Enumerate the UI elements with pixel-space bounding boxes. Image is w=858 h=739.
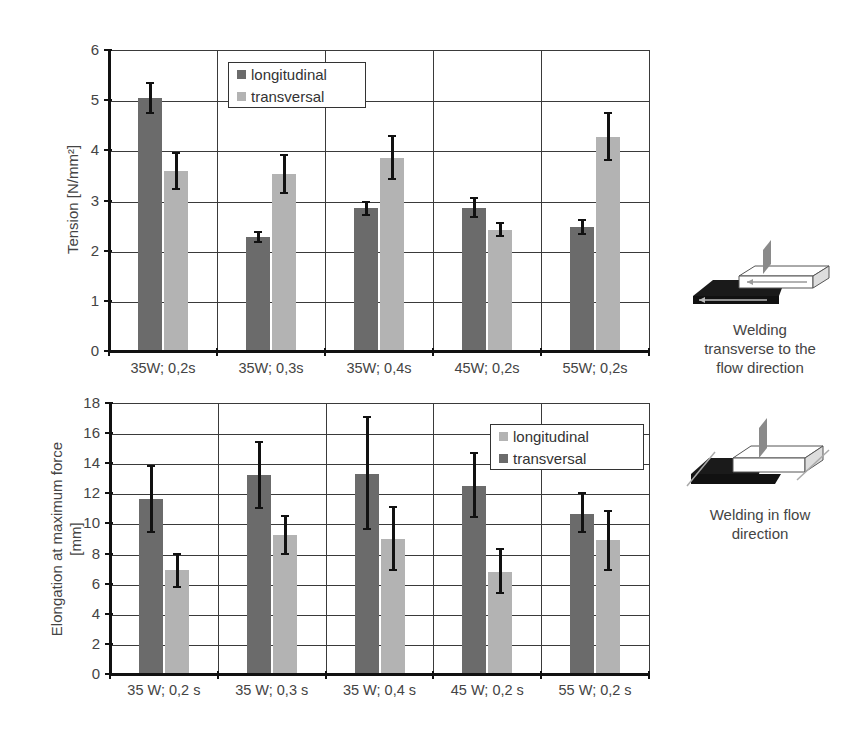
error-cap [389, 569, 397, 571]
x-tick-label: 45 W; 0,2 s [433, 682, 541, 698]
legend-label: longitudinal [513, 428, 589, 445]
y-tick [105, 613, 113, 615]
error-cap [604, 510, 612, 512]
gridline [110, 615, 649, 616]
category-separator [433, 404, 434, 675]
error-cap [470, 452, 478, 454]
y-tick [105, 522, 113, 524]
error-cap [363, 528, 371, 530]
error-bar [499, 549, 502, 593]
welding-transverse-caption: Welding transverse to the flow direction [670, 320, 850, 377]
error-cap [255, 507, 263, 509]
caption-line: Welding [670, 320, 850, 339]
x-tick-label: 35 W; 0,4 s [326, 682, 434, 698]
weld-inflow-icon [685, 412, 845, 492]
x-axis [109, 673, 650, 676]
x-tick [217, 671, 219, 679]
legend-item: longitudinal [491, 425, 643, 447]
chart-legend: longitudinaltransversal [490, 424, 644, 470]
elongation-chart: 02468101214161835 W; 0,2 s35 W; 0,3 s35 … [0, 0, 660, 739]
error-cap [389, 506, 397, 508]
error-cap [470, 516, 478, 518]
error-bar [176, 554, 179, 587]
x-tick [325, 671, 327, 679]
error-cap [147, 531, 155, 533]
x-tick [540, 671, 542, 679]
bar-dark-bars [570, 514, 594, 674]
error-cap [173, 553, 181, 555]
x-tick-label: 35 W; 0,3 s [218, 682, 326, 698]
error-cap [173, 586, 181, 588]
error-cap [281, 515, 289, 517]
x-tick-label: 35 W; 0,2 s [110, 682, 218, 698]
legend-swatch [499, 432, 508, 441]
y-tick [105, 402, 113, 404]
error-bar [473, 453, 476, 518]
x-tick [648, 671, 650, 679]
error-bar [284, 516, 287, 554]
gridline [110, 585, 649, 586]
legend-swatch [499, 454, 508, 463]
error-bar [150, 466, 153, 532]
caption-line: Welding in flow [670, 505, 850, 524]
caption-line: transverse to the [670, 339, 850, 358]
x-tick [109, 671, 111, 679]
error-bar [258, 442, 261, 508]
error-bar [392, 507, 395, 570]
legend-label: transversal [513, 450, 586, 467]
legend-item: transversal [491, 447, 643, 469]
error-cap [496, 592, 504, 594]
gridline [110, 555, 649, 556]
error-cap [363, 416, 371, 418]
error-cap [147, 465, 155, 467]
weld-transverse-icon [685, 238, 845, 318]
error-cap [281, 553, 289, 555]
y-axis-title: Elongation at maximum force[mm] [47, 389, 85, 689]
gridline [110, 645, 649, 646]
caption-line: flow direction [670, 358, 850, 377]
y-axis [109, 403, 112, 676]
error-cap [578, 531, 586, 533]
error-bar [607, 511, 610, 570]
welding-transverse-diagram [685, 238, 845, 318]
welding-inflow-diagram [685, 412, 845, 492]
caption-line: direction [670, 524, 850, 543]
y-tick [105, 583, 113, 585]
welding-inflow-caption: Welding in flow direction [670, 505, 850, 543]
error-cap [578, 492, 586, 494]
error-bar [366, 417, 369, 530]
error-cap [604, 569, 612, 571]
category-separator [326, 404, 327, 675]
bar-light-bars [273, 535, 297, 674]
y-tick [105, 462, 113, 464]
error-bar [581, 493, 584, 532]
category-separator [218, 404, 219, 675]
y-tick [105, 553, 113, 555]
error-cap [496, 548, 504, 550]
x-tick [432, 671, 434, 679]
gridline [110, 524, 649, 525]
gridline [110, 494, 649, 495]
y-tick [105, 492, 113, 494]
x-tick-label: 55 W; 0,2 s [541, 682, 649, 698]
y-tick [105, 643, 113, 645]
y-tick [105, 432, 113, 434]
error-cap [255, 441, 263, 443]
